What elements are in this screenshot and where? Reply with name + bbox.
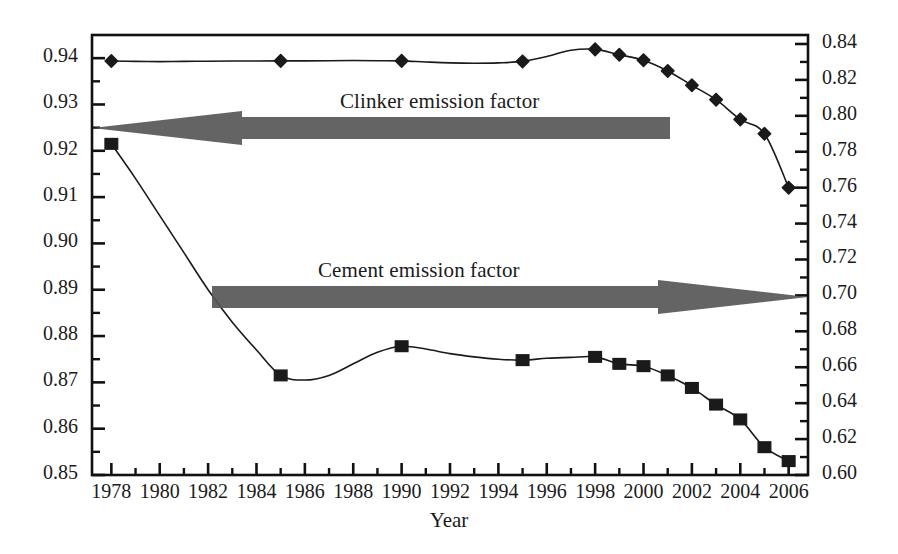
y-axis-right-tick-label: 0.66 bbox=[822, 353, 857, 376]
marker-diamond-clinker bbox=[637, 54, 649, 66]
marker-square-cement bbox=[516, 355, 529, 366]
marker-diamond-clinker bbox=[395, 55, 407, 67]
y-axis-left-tick-label: 0.87 bbox=[0, 368, 78, 391]
cement-pointer-arrow bbox=[212, 280, 808, 314]
y-axis-left-tick-label: 0.86 bbox=[0, 415, 78, 438]
marker-diamond-clinker bbox=[516, 55, 528, 67]
y-axis-right-tick-label: 0.72 bbox=[822, 245, 857, 268]
marker-square-cement bbox=[758, 442, 771, 453]
x-axis-tick-label: 2006 bbox=[749, 480, 829, 503]
marker-diamond-clinker bbox=[613, 49, 625, 61]
x-axis-title: Year bbox=[0, 508, 898, 533]
marker-diamond-clinker bbox=[662, 65, 674, 77]
y-axis-right-tick-label: 0.82 bbox=[822, 66, 857, 89]
chart-figure: Year Clinker emission factor Cement emis… bbox=[0, 0, 898, 554]
marker-diamond-clinker bbox=[274, 55, 286, 67]
y-axis-right-tick-label: 0.76 bbox=[822, 174, 857, 197]
clinker-pointer-arrow bbox=[92, 111, 670, 145]
y-axis-right-tick-label: 0.78 bbox=[822, 138, 857, 161]
marker-square-cement bbox=[685, 383, 698, 394]
y-axis-right-tick-label: 0.68 bbox=[822, 317, 857, 340]
marker-square-cement bbox=[105, 138, 118, 149]
cement-series-label: Cement emission factor bbox=[318, 258, 520, 283]
marker-square-cement bbox=[637, 361, 650, 372]
marker-square-cement bbox=[782, 456, 795, 467]
marker-square-cement bbox=[661, 370, 674, 381]
y-axis-right-tick-label: 0.62 bbox=[822, 425, 857, 448]
y-axis-left-tick-label: 0.94 bbox=[0, 44, 78, 67]
marker-diamond-clinker bbox=[686, 79, 698, 91]
y-axis-left-tick-label: 0.90 bbox=[0, 229, 78, 252]
marker-diamond-clinker bbox=[782, 181, 794, 193]
marker-diamond-clinker bbox=[105, 55, 117, 67]
marker-square-cement bbox=[734, 414, 747, 425]
marker-square-cement bbox=[710, 399, 723, 410]
y-axis-right-tick-label: 0.84 bbox=[822, 30, 857, 53]
marker-square-cement bbox=[613, 358, 626, 369]
y-axis-right-tick-label: 0.70 bbox=[822, 281, 857, 304]
y-axis-left-tick-label: 0.91 bbox=[0, 183, 78, 206]
y-axis-right-tick-label: 0.74 bbox=[822, 210, 857, 233]
y-axis-left-tick-label: 0.88 bbox=[0, 322, 78, 345]
marker-diamond-clinker bbox=[589, 43, 601, 55]
y-axis-left-tick-label: 0.85 bbox=[0, 461, 78, 484]
y-axis-left-tick-label: 0.93 bbox=[0, 90, 78, 113]
marker-square-cement bbox=[274, 370, 287, 381]
marker-square-cement bbox=[395, 341, 408, 352]
clinker-series-label: Clinker emission factor bbox=[340, 89, 539, 114]
y-axis-right-tick-label: 0.64 bbox=[822, 389, 857, 412]
y-axis-left-tick-label: 0.92 bbox=[0, 137, 78, 160]
y-axis-left-tick-label: 0.89 bbox=[0, 276, 78, 299]
y-axis-right-tick-label: 0.80 bbox=[822, 102, 857, 125]
marker-square-cement bbox=[589, 351, 602, 362]
